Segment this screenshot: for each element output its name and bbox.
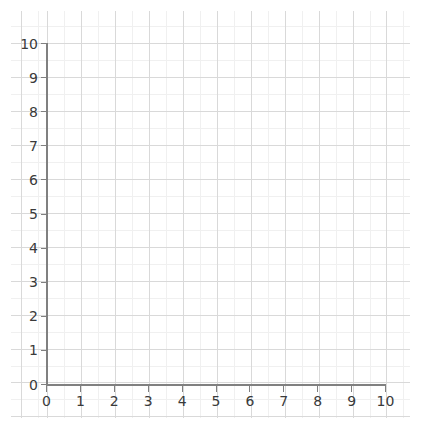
y-tick-0 [41, 384, 47, 385]
x-tick-label-0: 0 [32, 394, 62, 408]
y-tick-label-5: 5 [10, 207, 38, 221]
y-tick-8 [41, 111, 47, 112]
y-tick-label-4: 4 [10, 241, 38, 255]
x-tick-2 [114, 386, 115, 392]
x-tick-label-6: 6 [235, 394, 265, 408]
x-tick-9 [351, 386, 352, 392]
y-tick-2 [41, 316, 47, 317]
y-tick-7 [41, 145, 47, 146]
y-tick-label-7: 7 [10, 139, 38, 153]
y-tick-label-3: 3 [10, 275, 38, 289]
x-tick-label-3: 3 [133, 394, 163, 408]
x-tick-1 [80, 386, 81, 392]
x-tick-label-9: 9 [337, 394, 367, 408]
y-tick-label-8: 8 [10, 105, 38, 119]
y-tick-label-6: 6 [10, 173, 38, 187]
y-tick-3 [41, 282, 47, 283]
x-tick-5 [216, 386, 217, 392]
y-tick-4 [41, 248, 47, 249]
coordinate-plane-figure: 012345678910 012345678910 [0, 0, 421, 427]
x-tick-4 [182, 386, 183, 392]
x-tick-label-1: 1 [65, 394, 95, 408]
y-tick-1 [41, 350, 47, 351]
y-tick-label-1: 1 [10, 343, 38, 357]
y-tick-5 [41, 214, 47, 215]
x-tick-label-10: 10 [371, 394, 401, 408]
x-tick-label-4: 4 [167, 394, 197, 408]
y-tick-label-10: 10 [10, 37, 38, 51]
x-tick-label-8: 8 [303, 394, 333, 408]
x-tick-3 [148, 386, 149, 392]
x-tick-label-2: 2 [99, 394, 129, 408]
x-tick-label-7: 7 [269, 394, 299, 408]
y-tick-label-0: 0 [10, 378, 38, 392]
y-tick-9 [41, 77, 47, 78]
y-tick-10 [41, 43, 47, 44]
x-tick-0 [46, 386, 47, 392]
x-tick-8 [317, 386, 318, 392]
x-tick-label-5: 5 [201, 394, 231, 408]
y-tick-label-2: 2 [10, 309, 38, 323]
x-tick-10 [385, 386, 386, 392]
x-tick-6 [249, 386, 250, 392]
y-tick-6 [41, 179, 47, 180]
y-tick-label-9: 9 [10, 71, 38, 85]
x-tick-7 [283, 386, 284, 392]
plot-grid-area [11, 11, 410, 418]
